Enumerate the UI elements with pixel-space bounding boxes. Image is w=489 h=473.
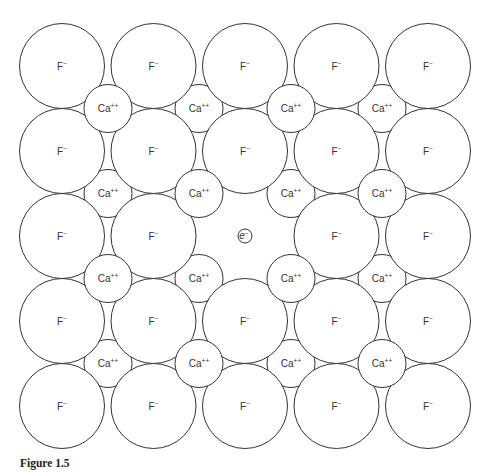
figure-caption: Figure 1.5	[20, 457, 70, 469]
vacancy-layer: e−	[238, 229, 252, 243]
calcium-ion: Ca++	[358, 340, 406, 388]
trapped-electron: e−	[238, 229, 252, 243]
fluorite-lattice-diagram: Ca++Ca++Ca++Ca++Ca++Ca++Ca++Ca++ F−F−F−F…	[0, 0, 489, 473]
calcium-ion: Ca++	[175, 170, 223, 218]
fluoride-ion: F−	[20, 364, 105, 449]
calcium-ion: Ca++	[84, 255, 132, 303]
calcium-ion: Ca++	[358, 170, 406, 218]
calcium-ion: Ca++	[267, 85, 315, 133]
fluoride-ion: F−	[386, 24, 471, 109]
calcium-ion: Ca++	[84, 85, 132, 133]
calcium-ion: Ca++	[267, 255, 315, 303]
calcium-ion: Ca++	[175, 340, 223, 388]
